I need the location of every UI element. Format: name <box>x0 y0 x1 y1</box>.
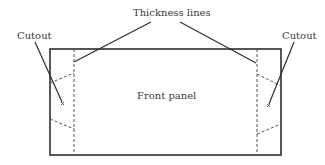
cutout-mark-right-icon <box>267 104 270 107</box>
front-panel-outline <box>50 49 281 155</box>
thickness-leader-right <box>180 22 256 63</box>
cutout-left-top-edge <box>50 73 74 83</box>
front-panel-diagram: Thickness lines Cutout Cutout Front pane… <box>0 0 325 165</box>
cutout-mark-left-icon <box>61 102 64 105</box>
thickness-leader-left <box>74 22 151 62</box>
cutout-left-label: Cutout <box>17 31 52 41</box>
cutout-leader-left <box>35 42 62 102</box>
cutout-right-bottom-edge <box>257 124 281 134</box>
diagram-canvas <box>0 0 325 165</box>
front-panel-label: Front panel <box>137 91 196 101</box>
cutout-right-label: Cutout <box>282 31 317 41</box>
cutout-left-bottom-edge <box>50 119 74 129</box>
thickness-lines-label: Thickness lines <box>133 8 211 18</box>
